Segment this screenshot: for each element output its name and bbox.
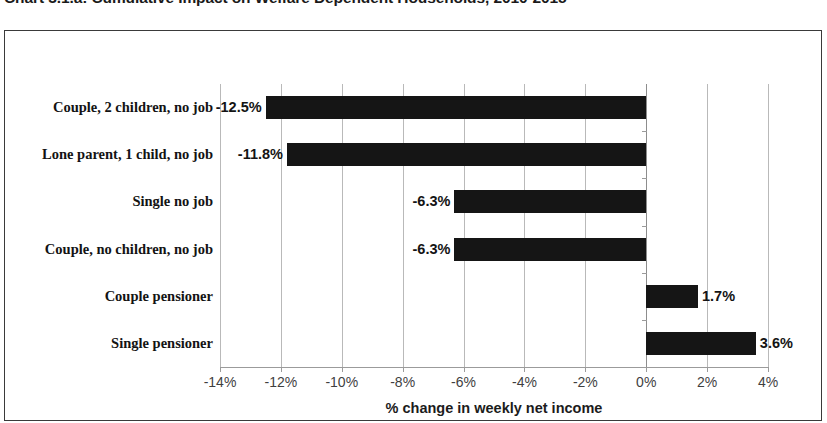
bar-row: -11.8% bbox=[220, 131, 768, 178]
bar-value-label: -6.3% bbox=[364, 238, 450, 261]
x-tick bbox=[768, 367, 769, 372]
category-label: Single no job bbox=[13, 178, 213, 225]
x-axis-line bbox=[220, 367, 768, 368]
x-tick bbox=[220, 367, 221, 372]
category-tick bbox=[642, 131, 647, 132]
bar[interactable] bbox=[454, 190, 646, 213]
bar-row: 1.7% bbox=[220, 273, 768, 320]
bar-value-label: 3.6% bbox=[760, 332, 827, 355]
x-tick-label: 2% bbox=[672, 374, 742, 390]
bar-row: -6.3% bbox=[220, 178, 768, 225]
bar-row: -6.3% bbox=[220, 226, 768, 273]
x-tick-label: -12% bbox=[246, 374, 316, 390]
x-tick bbox=[585, 367, 586, 372]
x-tick bbox=[464, 367, 465, 372]
x-tick bbox=[342, 367, 343, 372]
x-tick-label: -4% bbox=[489, 374, 559, 390]
chart-title: Chart 3.1.a: Cumulative Impact on Welfar… bbox=[4, 0, 804, 7]
bar-value-label: -11.8% bbox=[197, 143, 283, 166]
category-label: Lone parent, 1 child, no job bbox=[13, 131, 213, 178]
x-tick bbox=[281, 367, 282, 372]
plot-area: -12.5%-11.8%-6.3%-6.3%1.7%3.6% bbox=[220, 84, 768, 367]
bar[interactable] bbox=[266, 96, 647, 119]
chart-frame: Couple, 2 children, no jobLone parent, 1… bbox=[4, 30, 822, 421]
bar-value-label: -6.3% bbox=[364, 190, 450, 213]
category-tick bbox=[642, 273, 647, 274]
bar-row: -12.5% bbox=[220, 84, 768, 131]
category-label: Single pensioner bbox=[13, 320, 213, 367]
x-tick bbox=[707, 367, 708, 372]
category-tick bbox=[642, 178, 647, 179]
x-tick bbox=[646, 367, 647, 372]
x-tick-label: 4% bbox=[733, 374, 803, 390]
bar[interactable] bbox=[287, 143, 646, 166]
category-tick bbox=[642, 226, 647, 227]
bar-value-label: 1.7% bbox=[702, 285, 788, 308]
x-tick-label: -14% bbox=[185, 374, 255, 390]
category-label: Couple pensioner bbox=[13, 273, 213, 320]
bar[interactable] bbox=[454, 238, 646, 261]
bar-row: 3.6% bbox=[220, 320, 768, 367]
x-tick-label: 0% bbox=[611, 374, 681, 390]
category-axis-labels: Couple, 2 children, no jobLone parent, 1… bbox=[13, 84, 213, 367]
bar-value-label: -12.5% bbox=[176, 96, 262, 119]
gridline bbox=[768, 84, 769, 367]
x-tick-label: -2% bbox=[550, 374, 620, 390]
bar[interactable] bbox=[646, 285, 698, 308]
x-tick-label: -6% bbox=[429, 374, 499, 390]
category-label: Couple, no children, no job bbox=[13, 226, 213, 273]
bar[interactable] bbox=[646, 332, 756, 355]
x-tick-label: -8% bbox=[368, 374, 438, 390]
x-tick-label: -10% bbox=[307, 374, 377, 390]
x-axis-title: % change in weekly net income bbox=[220, 400, 768, 416]
x-tick bbox=[403, 367, 404, 372]
x-tick bbox=[524, 367, 525, 372]
category-tick bbox=[642, 320, 647, 321]
